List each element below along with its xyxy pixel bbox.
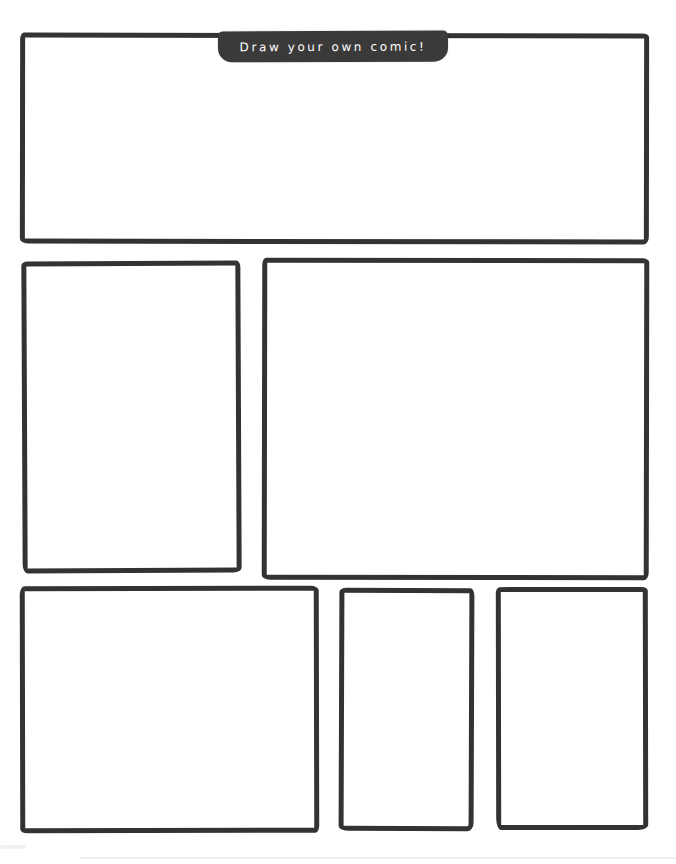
title-tab-label: Draw your own comic! [240, 39, 427, 55]
scan-artifact-smudge [0, 845, 26, 849]
comic-panel-5 [339, 588, 475, 831]
comic-template-page: Draw your own comic! [0, 0, 676, 864]
comic-panel-4 [20, 586, 320, 834]
comic-panel-2 [21, 261, 241, 574]
comic-panel-3 [262, 258, 650, 581]
scan-artifact-line [80, 857, 676, 859]
comic-panel-6 [496, 587, 648, 830]
comic-panel-1 [20, 33, 649, 245]
title-tab: Draw your own comic! [218, 31, 448, 63]
